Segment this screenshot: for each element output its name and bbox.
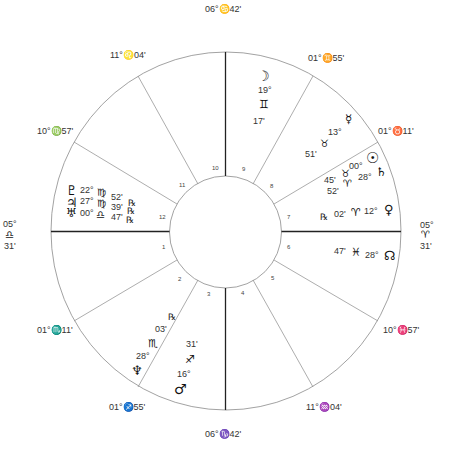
house-number-2: 2 (178, 276, 181, 282)
asc-minutes: 31' (4, 242, 16, 251)
cusp-label-house-11: 11°♌04' (110, 51, 146, 60)
cusp-label-house-9: 01°♊55' (308, 54, 344, 63)
pisces-icon: ♓ (351, 247, 361, 258)
venus-retrograde: ℞ (320, 213, 328, 222)
jupiter-degree: 27° (80, 197, 94, 206)
aries-icon-saturn: ♈ (343, 179, 352, 189)
neptune-icon: ♆ (131, 364, 143, 377)
mercury-degree: 13° (328, 128, 342, 137)
cusp-label-house-12: 10°♍57' (37, 127, 73, 136)
uranus-degree: 00° (80, 209, 94, 218)
cusp-label-house-5: 11°♒04' (306, 403, 342, 412)
asc-degree: 05° (3, 220, 17, 229)
pluto-minutes: 52' (111, 193, 123, 202)
house-number-6: 6 (287, 244, 290, 250)
mercury-icon: ☿ (345, 113, 352, 125)
house-number-1: 1 (162, 244, 165, 250)
sun-icon: ☉ (366, 151, 379, 166)
north-node-icon: ☊ (384, 249, 396, 262)
libra-icon-uranus: ♎ (96, 210, 105, 220)
scorpio-icon: ♏ (148, 338, 158, 349)
house-number-4: 4 (241, 290, 244, 296)
mars-degree: 16° (177, 370, 191, 379)
saturn-degree: 28° (358, 173, 372, 182)
moon-degree: 19° (258, 86, 272, 95)
neptune-degree: 28° (136, 352, 150, 361)
libra-icon: ♎ (5, 230, 14, 240)
venus-icon: ♀ (384, 203, 394, 216)
saturn-icon: ♄ (376, 166, 387, 178)
house-number-11: 11 (179, 182, 185, 188)
virgo-icon-pluto: ♍ (97, 188, 106, 198)
uranus-retrograde: ℞ (126, 216, 134, 225)
saturn-minutes: 52' (327, 187, 339, 196)
cusp-label-ic: 06°♑42' (205, 430, 241, 439)
pluto-degree: 22° (80, 186, 94, 195)
mars-minutes: 31' (186, 340, 198, 349)
dsc-minutes: 31' (420, 242, 432, 251)
cusp-label-house-3: 01°♐55' (109, 403, 145, 412)
mercury-minutes: 51' (305, 150, 317, 159)
uranus-minutes: 47' (111, 213, 123, 222)
jupiter-minutes: 39' (111, 203, 123, 212)
cusp-label-house-6: 10°♓57' (383, 326, 419, 335)
chart-wheel (0, 0, 451, 460)
gemini-icon: ♊ (259, 99, 269, 110)
node-minutes: 47' (334, 247, 346, 256)
house-number-3: 3 (207, 291, 210, 297)
house-number-8: 8 (270, 183, 273, 189)
cusp-label-mc: 06°♋42' (205, 5, 241, 14)
sun-minutes: 45' (324, 176, 336, 185)
moon-icon: ☽ (257, 69, 270, 83)
venus-degree: 12° (364, 207, 378, 216)
neptune-retrograde: ℞ (168, 313, 176, 322)
house-number-5: 5 (271, 275, 274, 281)
house-number-7: 7 (287, 214, 290, 220)
house-number-10: 10 (212, 165, 219, 171)
uranus-icon: ♅ (66, 207, 77, 219)
cusp-label-house-8: 01°♉11' (378, 127, 414, 136)
taurus-icon: ♉ (320, 139, 329, 149)
venus-minutes: 02' (334, 210, 346, 219)
sun-degree: 00° (349, 162, 363, 171)
moon-minutes: 17' (253, 117, 265, 126)
aries-icon-venus: ♈ (351, 207, 361, 218)
mars-icon: ♂ (174, 382, 187, 396)
aries-icon: ♈ (421, 230, 430, 240)
node-degree: 28° (365, 251, 379, 260)
cusp-label-house-2: 01°♏11' (37, 326, 73, 335)
virgo-icon-jupiter: ♍ (97, 199, 106, 209)
inner-circle (170, 176, 282, 288)
house-number-9: 9 (242, 166, 245, 172)
house-number-12: 12 (159, 214, 166, 220)
sagittarius-icon: ♐ (185, 354, 195, 365)
neptune-minutes: 03' (155, 325, 167, 334)
